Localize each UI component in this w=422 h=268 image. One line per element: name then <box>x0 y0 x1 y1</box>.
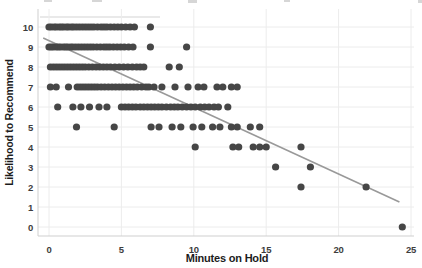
data-point <box>54 103 61 110</box>
data-point <box>200 83 207 90</box>
data-point <box>215 103 222 110</box>
data-point <box>147 23 154 30</box>
data-point <box>224 103 231 110</box>
data-point <box>65 83 72 90</box>
data-point <box>69 103 76 110</box>
y-axis-title: Likelihood to Recommend <box>3 23 16 223</box>
y-tick-label: 8 <box>28 62 33 73</box>
data-point <box>272 163 279 170</box>
y-tick-label: 9 <box>28 42 33 53</box>
data-point <box>297 143 304 150</box>
data-point <box>234 123 241 130</box>
data-point <box>95 103 102 110</box>
data-point <box>166 63 173 70</box>
data-point <box>209 123 216 130</box>
data-point <box>307 163 314 170</box>
data-point <box>77 103 84 110</box>
data-point <box>263 143 270 150</box>
data-point <box>158 83 165 90</box>
y-tick-label: 10 <box>23 22 33 33</box>
data-point <box>399 223 406 230</box>
data-point <box>73 123 80 130</box>
data-point <box>169 123 176 130</box>
y-tick-label: 3 <box>28 162 33 173</box>
data-point <box>235 143 242 150</box>
y-tick-label: 2 <box>28 182 33 193</box>
data-point <box>256 123 263 130</box>
data-point <box>129 43 136 50</box>
y-tick-label: 1 <box>28 202 34 213</box>
chart-canvas: 0123456789100510152025 <box>0 0 422 268</box>
data-point <box>363 183 370 190</box>
data-point <box>192 143 199 150</box>
data-point <box>111 123 118 130</box>
data-point <box>86 103 93 110</box>
y-tick-label: 4 <box>28 142 34 153</box>
data-point <box>183 43 190 50</box>
data-point <box>171 83 178 90</box>
trend-line <box>43 38 399 202</box>
data-point <box>219 83 226 90</box>
data-point <box>147 43 154 50</box>
data-point <box>53 83 60 90</box>
data-point <box>148 123 155 130</box>
data-point <box>234 83 241 90</box>
scatter-plot-figure: 0123456789100510152025 Likelihood to Rec… <box>0 0 422 268</box>
y-tick-label: 0 <box>28 222 33 233</box>
data-point <box>176 63 183 70</box>
data-point <box>297 183 304 190</box>
data-point <box>190 123 197 130</box>
data-point <box>198 123 205 130</box>
data-point <box>216 123 223 130</box>
data-point <box>256 143 263 150</box>
data-point <box>155 123 162 130</box>
y-tick-label: 5 <box>28 122 34 133</box>
y-tick-label: 6 <box>28 102 33 113</box>
data-point <box>150 83 157 90</box>
data-point <box>247 123 254 130</box>
data-point <box>250 143 257 150</box>
data-point <box>103 103 110 110</box>
data-point <box>184 83 191 90</box>
x-axis-title: Minutes on Hold <box>38 252 416 264</box>
data-point <box>140 63 147 70</box>
data-point <box>131 23 138 30</box>
data-point <box>177 123 184 130</box>
y-tick-label: 7 <box>28 82 33 93</box>
